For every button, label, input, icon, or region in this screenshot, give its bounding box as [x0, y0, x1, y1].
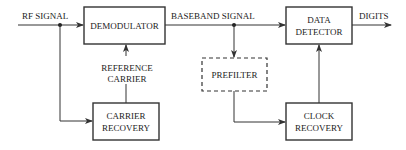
data-detector-block: [286, 7, 352, 44]
carrier-recovery-block: [93, 103, 159, 140]
rf-signal-label: RF SIGNAL: [22, 11, 68, 21]
clock-recovery-label-2: RECOVERY: [295, 123, 344, 133]
carrier-recovery-label-1: CARRIER: [106, 111, 145, 121]
baseband-signal-label: BASEBAND SIGNAL: [171, 11, 255, 21]
prefilter-to-clock-line: [234, 91, 285, 122]
digits-label: DIGITS: [359, 11, 389, 21]
prefilter-label: PREFILTER: [211, 70, 257, 80]
data-detector-label-1: DATA: [307, 15, 331, 25]
carrier-recovery-label-2: RECOVERY: [102, 123, 151, 133]
demodulator-label: DEMODULATOR: [90, 21, 158, 31]
clock-recovery-block: [286, 103, 352, 140]
clock-recovery-label-1: CLOCK: [304, 111, 335, 121]
reference-carrier-label-1: REFERENCE: [101, 63, 153, 73]
data-detector-label-2: DETECTOR: [296, 27, 343, 37]
receiver-block-diagram: RF SIGNAL DEMODULATOR REFERENCE CARRIER …: [0, 0, 406, 150]
reference-carrier-label-2: CARRIER: [107, 74, 146, 84]
